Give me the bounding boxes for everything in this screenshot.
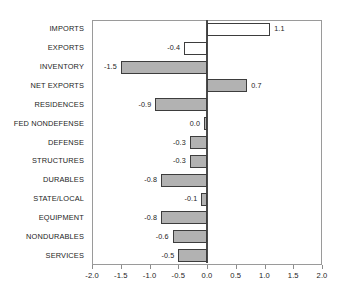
bars-layer: 1.1-0.4-1.50.7-0.90.0-0.3-0.3-0.8-0.1-0.… xyxy=(92,20,322,265)
bar-value-label: 1.1 xyxy=(274,25,284,33)
bar xyxy=(207,79,247,92)
x-tick-label: 0.5 xyxy=(221,271,251,280)
bar xyxy=(201,193,207,206)
category-label: EQUIPMENT xyxy=(0,214,84,222)
x-tick-mark xyxy=(207,265,208,269)
bar xyxy=(184,42,207,55)
bar-value-label: -0.8 xyxy=(144,214,157,222)
category-label: SERVICES xyxy=(0,252,84,260)
x-tick-label: -1.5 xyxy=(106,271,136,280)
bar xyxy=(161,211,207,224)
category-label: NONDURABLES xyxy=(0,233,84,241)
x-tick-label: 1.0 xyxy=(250,271,280,280)
bar xyxy=(190,155,207,168)
x-tick-mark xyxy=(121,265,122,269)
category-label: IMPORTS xyxy=(0,25,84,33)
bar xyxy=(155,98,207,111)
x-tick-mark xyxy=(150,265,151,269)
bar xyxy=(161,174,207,187)
category-label: NET EXPORTS xyxy=(0,82,84,90)
bar xyxy=(207,23,270,36)
bar-value-label: -0.8 xyxy=(144,176,157,184)
bar-value-label: -0.6 xyxy=(156,233,169,241)
x-tick-label: 1.5 xyxy=(278,271,308,280)
x-tick-label: -2.0 xyxy=(77,271,107,280)
category-label: EXPORTS xyxy=(0,44,84,52)
x-tick-label: -0.5 xyxy=(163,271,193,280)
bar-value-label: -0.9 xyxy=(138,101,151,109)
bar-value-label: -0.5 xyxy=(161,252,174,260)
category-label: STRUCTURES xyxy=(0,157,84,165)
bar-value-label: -0.3 xyxy=(173,139,186,147)
x-tick-mark xyxy=(293,265,294,269)
bar xyxy=(178,249,207,262)
bar-chart: IMPORTSEXPORTSINVENTORYNET EXPORTSRESIDE… xyxy=(0,0,340,290)
x-tick-mark xyxy=(236,265,237,269)
category-label: RESIDENCES xyxy=(0,101,84,109)
category-label: INVENTORY xyxy=(0,63,84,71)
x-tick-label: -1.0 xyxy=(135,271,165,280)
category-label: DEFENSE xyxy=(0,139,84,147)
category-axis-labels: IMPORTSEXPORTSINVENTORYNET EXPORTSRESIDE… xyxy=(0,20,88,265)
bar-value-label: -0.4 xyxy=(167,44,180,52)
bar-value-label: -0.3 xyxy=(173,157,186,165)
bar xyxy=(204,117,207,130)
bar xyxy=(121,61,207,74)
x-tick-mark xyxy=(322,265,323,269)
category-label: DURABLES xyxy=(0,176,84,184)
x-tick-mark xyxy=(265,265,266,269)
bar-value-label: 0.7 xyxy=(251,82,261,90)
bar xyxy=(173,230,208,243)
x-tick-label: 2.0 xyxy=(307,271,337,280)
category-label: STATE/LOCAL xyxy=(0,195,84,203)
x-axis: -2.0-1.5-1.0-0.50.00.51.01.52.0 xyxy=(92,265,322,289)
bar-value-label: -0.1 xyxy=(184,195,197,203)
bar xyxy=(190,136,207,149)
bar-value-label: -1.5 xyxy=(104,63,117,71)
x-tick-mark xyxy=(178,265,179,269)
x-tick-mark xyxy=(92,265,93,269)
x-tick-label: 0.0 xyxy=(192,271,222,280)
category-label: FED NONDEFENSE xyxy=(0,120,84,128)
bar-value-label: 0.0 xyxy=(190,120,200,128)
